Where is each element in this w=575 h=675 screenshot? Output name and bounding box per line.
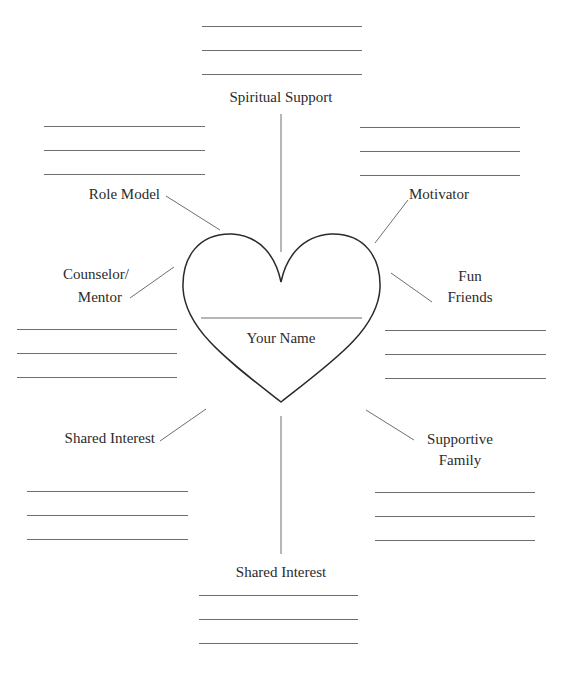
worksheet-canvas: Spiritual Support Role Model Motivator C…: [0, 0, 575, 675]
branch-label-line1: Counselor/: [46, 263, 146, 285]
write-line[interactable]: [385, 330, 546, 331]
branch-label: Shared Interest: [20, 427, 155, 449]
branch-label-line2: Family: [405, 449, 515, 471]
connector-bottom-left: [160, 409, 206, 441]
write-line[interactable]: [202, 26, 362, 27]
branch-label: Spiritual Support: [181, 86, 381, 108]
write-line[interactable]: [385, 378, 546, 379]
write-line[interactable]: [44, 174, 205, 175]
write-line[interactable]: [375, 540, 535, 541]
write-line[interactable]: [375, 492, 535, 493]
write-line[interactable]: [202, 50, 362, 51]
branch-label: Shared Interest: [181, 561, 381, 583]
write-line[interactable]: [360, 175, 520, 176]
write-line[interactable]: [360, 127, 520, 128]
write-line[interactable]: [199, 643, 358, 644]
connector-top-left: [166, 196, 220, 230]
connector-mid-right: [391, 273, 432, 302]
your-name-label: Your Name: [221, 327, 341, 349]
write-line[interactable]: [385, 354, 546, 355]
write-line[interactable]: [17, 329, 177, 330]
write-line[interactable]: [202, 74, 362, 75]
write-line[interactable]: [27, 515, 188, 516]
branch-label: Role Model: [40, 183, 160, 205]
write-line[interactable]: [27, 491, 188, 492]
write-line[interactable]: [17, 353, 177, 354]
write-line[interactable]: [17, 377, 177, 378]
write-line[interactable]: [360, 151, 520, 152]
write-line[interactable]: [27, 539, 188, 540]
write-line[interactable]: [199, 619, 358, 620]
write-line[interactable]: [375, 516, 535, 517]
write-line[interactable]: [199, 595, 358, 596]
branch-label-line2: Friends: [430, 286, 510, 308]
branch-label: Motivator: [409, 183, 469, 205]
connector-top-right: [375, 200, 408, 243]
write-line[interactable]: [44, 150, 205, 151]
branch-label-line1: Fun: [430, 265, 510, 287]
branch-label-line2: Mentor: [20, 286, 122, 308]
branch-label-line1: Supportive: [405, 428, 515, 450]
write-line[interactable]: [44, 126, 205, 127]
